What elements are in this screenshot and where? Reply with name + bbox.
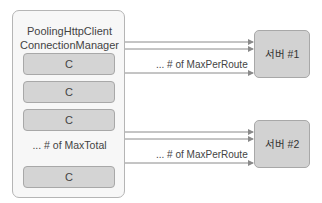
manager-title: PoolingHttpClient ConnectionManager — [13, 24, 126, 52]
connection-box: C — [23, 109, 115, 131]
server-1-box: 서버 #1 — [254, 30, 310, 78]
server-2-box: 서버 #2 — [254, 120, 310, 168]
manager-title-line2: ConnectionManager — [13, 38, 126, 52]
connection-box: C — [23, 53, 115, 75]
max-total-label: ... # of MaxTotal — [13, 139, 126, 151]
connection-manager-box: PoolingHttpClient ConnectionManager C C … — [12, 10, 125, 198]
manager-title-line1: PoolingHttpClient — [13, 24, 126, 38]
connection-box: C — [23, 166, 115, 188]
max-per-route-label-1: ... # of MaxPerRoute — [156, 59, 248, 70]
max-per-route-label-2: ... # of MaxPerRoute — [156, 149, 248, 160]
connection-box: C — [23, 81, 115, 103]
